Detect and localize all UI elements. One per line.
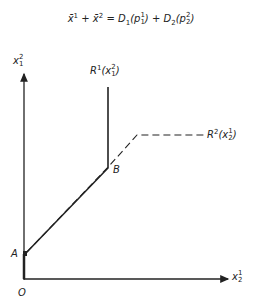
- r1-curve: [25, 87, 108, 254]
- r2-curve: [27, 135, 205, 252]
- y-axis-label: x21: [13, 54, 23, 68]
- point-a-marker: [23, 251, 27, 256]
- origin-label: O: [18, 287, 26, 298]
- point-a-label: A: [11, 248, 18, 259]
- x-axis-label: x12: [232, 270, 242, 284]
- r1-label: R1(x21): [90, 64, 120, 78]
- diagram-canvas: [0, 0, 262, 307]
- point-b-label: B: [113, 164, 120, 175]
- r2-label: R2(x12): [207, 128, 237, 142]
